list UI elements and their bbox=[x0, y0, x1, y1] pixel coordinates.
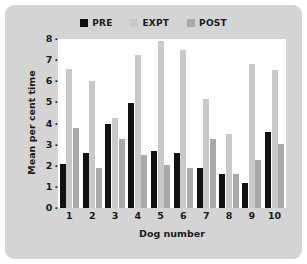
bar-post-dog-5 bbox=[164, 165, 170, 208]
legend-label-expt: EXPT bbox=[142, 18, 169, 28]
bar-group-dog-2 bbox=[81, 39, 104, 208]
bar-expt-dog-5 bbox=[158, 41, 164, 208]
y-tick-0: 0· bbox=[46, 202, 58, 214]
bar-group-dog-4 bbox=[126, 39, 149, 208]
bar-expt-dog-7 bbox=[203, 99, 209, 208]
bar-expt-dog-8 bbox=[226, 134, 232, 208]
legend-entry-expt: EXPT bbox=[130, 18, 169, 28]
legend-swatch-pre bbox=[80, 19, 88, 27]
bar-group-dog-5 bbox=[149, 39, 172, 208]
bar-expt-dog-9 bbox=[249, 64, 255, 208]
bar-post-dog-2 bbox=[96, 168, 102, 208]
bar-pre-dog-3 bbox=[105, 124, 111, 209]
x-axis-title: Dog number bbox=[58, 228, 286, 239]
y-tick-4: 4· bbox=[46, 118, 58, 130]
y-tick-5: 5· bbox=[46, 96, 58, 108]
legend-label-post: POST bbox=[199, 18, 227, 28]
x-tick-1: 1 bbox=[58, 210, 80, 221]
y-tick-value: 1 bbox=[46, 181, 53, 192]
bar-expt-dog-4 bbox=[135, 55, 141, 208]
bar-group-dog-1 bbox=[58, 39, 81, 208]
bar-group-dog-6 bbox=[172, 39, 195, 208]
legend-entry-pre: PRE bbox=[80, 18, 112, 28]
y-tick-value: 8 bbox=[46, 33, 53, 44]
chart-legend: PREEXPTPOST bbox=[0, 16, 307, 30]
bar-group-dog-10 bbox=[263, 39, 286, 208]
x-tick-10: 10 bbox=[264, 210, 286, 221]
chart-figure: PREEXPTPOST Mean per cent time 0·1·2·3·4… bbox=[0, 0, 307, 264]
bar-pre-dog-1 bbox=[60, 164, 66, 208]
y-tick-2: 2· bbox=[46, 160, 58, 172]
x-tick-6: 6 bbox=[172, 210, 194, 221]
bar-expt-dog-10 bbox=[272, 70, 278, 208]
bar-post-dog-4 bbox=[141, 155, 147, 208]
x-tick-9: 9 bbox=[241, 210, 263, 221]
bar-pre-dog-2 bbox=[83, 153, 89, 208]
x-axis-tick-labels: 12345678910 bbox=[58, 210, 286, 224]
bar-expt-dog-2 bbox=[89, 81, 95, 208]
bar-pre-dog-8 bbox=[219, 174, 225, 208]
x-tick-7: 7 bbox=[195, 210, 217, 221]
bar-pre-dog-9 bbox=[242, 183, 248, 208]
x-tick-5: 5 bbox=[150, 210, 172, 221]
y-tick-7: 7· bbox=[46, 54, 58, 66]
y-tick-value: 4 bbox=[46, 118, 53, 129]
y-tick-value: 0 bbox=[46, 202, 53, 213]
bar-post-dog-6 bbox=[187, 168, 193, 208]
bar-group-dog-9 bbox=[240, 39, 263, 208]
bar-post-dog-10 bbox=[278, 144, 284, 208]
y-tick-value: 7 bbox=[46, 54, 53, 65]
x-tick-2: 2 bbox=[81, 210, 103, 221]
x-tick-3: 3 bbox=[104, 210, 126, 221]
y-tick-6: 6· bbox=[46, 75, 58, 87]
y-tick-1: 1· bbox=[46, 181, 58, 193]
bar-expt-dog-1 bbox=[66, 69, 72, 208]
bar-post-dog-9 bbox=[255, 160, 261, 208]
y-axis-title: Mean per cent time bbox=[26, 43, 37, 203]
bar-group-dog-7 bbox=[195, 39, 218, 208]
bar-post-dog-8 bbox=[233, 174, 239, 208]
y-axis-tick-labels: 0·1·2·3·4·5·6·7·8· bbox=[40, 33, 58, 214]
bar-group-dog-3 bbox=[104, 39, 127, 208]
legend-swatch-expt bbox=[130, 19, 138, 27]
legend-entry-post: POST bbox=[187, 18, 227, 28]
y-tick-value: 6 bbox=[46, 75, 53, 86]
x-tick-4: 4 bbox=[127, 210, 149, 221]
bar-pre-dog-6 bbox=[174, 153, 180, 208]
x-tick-8: 8 bbox=[218, 210, 240, 221]
bar-pre-dog-5 bbox=[151, 151, 157, 208]
y-tick-value: 2 bbox=[46, 160, 53, 171]
bar-expt-dog-3 bbox=[112, 118, 118, 208]
y-tick-value: 5 bbox=[46, 96, 53, 107]
y-tick-value: 3 bbox=[46, 139, 53, 150]
bar-pre-dog-10 bbox=[265, 132, 271, 208]
bar-post-dog-7 bbox=[210, 139, 216, 208]
bar-post-dog-1 bbox=[73, 128, 79, 208]
bar-pre-dog-4 bbox=[128, 103, 134, 208]
legend-label-pre: PRE bbox=[92, 18, 112, 28]
bar-group-dog-8 bbox=[218, 39, 241, 208]
plot-area bbox=[58, 39, 286, 208]
bar-post-dog-3 bbox=[119, 139, 125, 208]
legend-swatch-post bbox=[187, 19, 195, 27]
bar-pre-dog-7 bbox=[197, 168, 203, 208]
y-tick-8: 8· bbox=[46, 33, 58, 45]
bar-expt-dog-6 bbox=[180, 50, 186, 208]
y-tick-3: 3· bbox=[46, 139, 58, 151]
